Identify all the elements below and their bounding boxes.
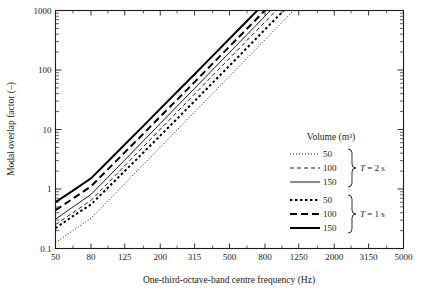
- x-tick-label: 200: [154, 252, 168, 262]
- y-tick-label: 100: [38, 65, 52, 75]
- x-tick-label: 1250: [290, 252, 309, 262]
- y-tick-label: 0.1: [40, 244, 51, 254]
- x-tick-label: 5000: [395, 252, 414, 262]
- x-tick-label: 125: [118, 252, 132, 262]
- x-tick-label: 800: [258, 252, 272, 262]
- legend-group-label: T = 2 s: [360, 163, 385, 173]
- legend-entry-label: 150: [323, 223, 337, 233]
- x-tick-label: 2000: [325, 252, 344, 262]
- legend-entry-label: 150: [323, 177, 337, 187]
- chart-svg: 0.11101001000 50801252003155008001250200…: [0, 0, 423, 292]
- x-tick-label: 80: [87, 252, 97, 262]
- y-axis-title: Modal overlap factor (–): [6, 82, 17, 176]
- x-tick-label: 315: [188, 252, 202, 262]
- x-axis-title: One-third-octave-band centre frequency (…: [143, 275, 315, 286]
- legend-entry-label: 100: [323, 163, 337, 173]
- x-tick-label: 3150: [360, 252, 379, 262]
- legend-entry-label: 50: [323, 195, 333, 205]
- chart-figure: 0.11101001000 50801252003155008001250200…: [0, 0, 423, 292]
- y-tick-label: 1: [47, 184, 52, 194]
- legend-entry-label: 100: [323, 209, 337, 219]
- legend-entry-label: 50: [323, 149, 333, 159]
- y-tick-label: 10: [43, 125, 53, 135]
- legend-group-label: T = 1 s: [360, 209, 385, 219]
- y-tick-label: 1000: [34, 6, 53, 16]
- legend-title: Volume (m³): [307, 132, 355, 143]
- x-tick-label: 50: [51, 252, 61, 262]
- x-tick-label: 500: [223, 252, 237, 262]
